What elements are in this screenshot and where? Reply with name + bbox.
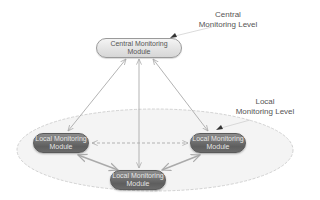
central-level-label-line1: Central <box>196 10 260 20</box>
local-bottom-label-line2: Module <box>127 180 150 189</box>
local-left-label-line2: Module <box>50 143 73 152</box>
local-monitoring-level-label: Local Monitoring Level <box>233 97 297 117</box>
central-monitoring-module: Central Monitoring Module <box>96 38 182 58</box>
central-module-label-line2: Module <box>128 48 151 57</box>
local-monitoring-module-left: Local Monitoring Module <box>33 133 89 153</box>
local-monitoring-module-right: Local Monitoring Module <box>190 133 246 153</box>
local-bottom-label-line1: Local Monitoring <box>112 172 163 181</box>
central-level-label-line2: Monitoring Level <box>196 20 260 30</box>
local-right-label-line2: Module <box>207 143 230 152</box>
local-monitoring-module-bottom: Local Monitoring Module <box>110 170 166 190</box>
local-level-label-line2: Monitoring Level <box>233 107 297 117</box>
central-monitoring-level-label: Central Monitoring Level <box>196 10 260 30</box>
central-module-label-line1: Central Monitoring <box>110 40 167 49</box>
local-right-label-line1: Local Monitoring <box>192 135 243 144</box>
local-left-label-line1: Local Monitoring <box>35 135 86 144</box>
local-level-label-line1: Local <box>233 97 297 107</box>
